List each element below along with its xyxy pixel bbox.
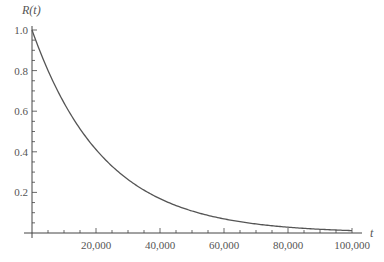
x-tick-label: 20,000 [81,239,112,251]
x-tick-label: 100,000 [334,239,370,251]
y-tick-label: 0.2 [14,186,28,198]
y-tick-label: 0.4 [14,146,28,158]
x-tick-label: 80,000 [273,239,304,251]
reliability-curve [32,30,352,231]
y-tick-label: 0.6 [14,105,28,117]
reliability-chart: 0.20.40.60.81.020,00040,00060,00080,0001… [0,0,384,262]
y-tick-label: 1.0 [14,24,28,36]
ticks: 0.20.40.60.81.020,00040,00060,00080,0001… [14,24,370,251]
x-tick-label: 60,000 [209,239,240,251]
y-axis-label: R(t) [21,3,41,17]
x-axis-label: t [370,226,374,240]
y-tick-label: 0.8 [14,65,28,77]
x-tick-label: 40,000 [145,239,176,251]
axes [24,26,362,238]
